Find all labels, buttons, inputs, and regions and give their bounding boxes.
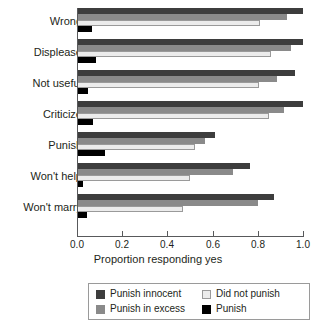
- bar-group: [77, 194, 303, 221]
- bar-punish: [77, 212, 87, 218]
- bar-group: [77, 101, 303, 128]
- bar-did-not-punish: [77, 206, 183, 212]
- x-tick-label: 0.6: [198, 239, 228, 251]
- plot-area: [77, 8, 303, 230]
- legend-swatch-icon: [96, 305, 105, 314]
- bar-group: [77, 163, 303, 190]
- bar-group: [77, 39, 303, 66]
- category-label: Criticize: [0, 108, 82, 121]
- legend-entry-punish-innocent: Punish innocent: [96, 288, 200, 300]
- legend-entry-did-not-punish: Did not punish: [202, 288, 304, 300]
- legend-entry-punish: Punish: [202, 303, 304, 315]
- legend-swatch-icon: [202, 290, 211, 299]
- bar-punish: [77, 119, 93, 125]
- bar-did-not-punish: [77, 82, 259, 88]
- bar-did-not-punish: [77, 51, 271, 57]
- legend-entry-punish-in-excess: Punish in excess: [96, 303, 200, 315]
- x-axis-title: Proportion responding yes: [0, 253, 316, 266]
- x-axis-line: [77, 236, 304, 237]
- x-tick-label: 0.4: [152, 239, 182, 251]
- legend-swatch-icon: [202, 305, 211, 314]
- x-tick-mark: [303, 231, 304, 237]
- y-axis-line: [77, 8, 78, 236]
- bar-group: [77, 132, 303, 159]
- legend-label: Did not punish: [216, 288, 280, 300]
- x-tick-label: 1.0: [288, 239, 316, 251]
- category-label: Wrong: [0, 15, 82, 28]
- category-label: Punish: [0, 139, 82, 152]
- legend-swatch-icon: [96, 290, 105, 299]
- bar-punish: [77, 26, 92, 32]
- x-tick-mark: [167, 231, 168, 237]
- x-tick-mark: [122, 231, 123, 237]
- x-tick-label: 0.8: [243, 239, 273, 251]
- legend-label: Punish: [216, 303, 247, 315]
- bar-punish: [77, 57, 96, 63]
- x-tick-mark: [213, 231, 214, 237]
- bar-group: [77, 70, 303, 97]
- legend-label: Punish innocent: [110, 288, 181, 300]
- bar-chart: Wrong Displease Not useful Criticize Pun…: [0, 0, 316, 329]
- category-label: Displease: [0, 46, 82, 59]
- category-label: Won't help: [0, 170, 82, 183]
- chart-legend: Punish innocent Did not punish Punish in…: [88, 283, 310, 320]
- bar-did-not-punish: [77, 175, 190, 181]
- category-label: Won't marry: [0, 201, 82, 214]
- bar-did-not-punish: [77, 20, 260, 26]
- bar-group: [77, 8, 303, 35]
- bar-punish: [77, 150, 105, 156]
- bar-did-not-punish: [77, 113, 269, 119]
- x-tick-mark: [258, 231, 259, 237]
- category-label: Not useful: [0, 77, 82, 90]
- legend-label: Punish in excess: [110, 303, 185, 315]
- bar-punish: [77, 88, 88, 94]
- x-tick-label: 0.2: [107, 239, 137, 251]
- x-tick-label: 0.0: [62, 239, 92, 251]
- x-tick-mark: [77, 231, 78, 237]
